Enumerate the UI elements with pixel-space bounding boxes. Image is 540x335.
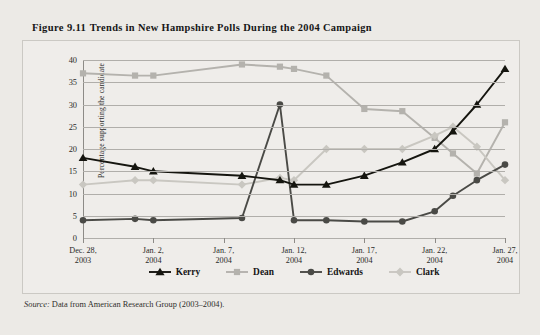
legend-item-edwards[interactable]: Edwards xyxy=(300,266,363,278)
series-clark xyxy=(79,123,509,189)
data-point xyxy=(323,217,330,224)
data-point xyxy=(323,72,329,78)
x-tick xyxy=(294,238,295,243)
data-point xyxy=(399,108,405,114)
chart-card: Percentage supporting the candidate 0510… xyxy=(22,40,520,294)
data-point xyxy=(239,61,245,67)
y-tick-label: 30 xyxy=(55,100,77,109)
data-point xyxy=(132,72,138,78)
figure-label: Figure 9.11 xyxy=(32,22,86,33)
y-tick-label: 20 xyxy=(55,145,77,154)
figure-title-text: Trends in New Hampshire Polls During the… xyxy=(90,22,372,33)
y-tick-label: 35 xyxy=(55,78,77,87)
data-point xyxy=(131,176,139,184)
data-point xyxy=(502,161,509,168)
page-title: Figure 9.11 Trends in New Hampshire Poll… xyxy=(32,20,512,35)
x-tick xyxy=(505,238,506,243)
data-point xyxy=(361,106,367,112)
series-line xyxy=(83,65,505,174)
source-note: Source: Data from American Research Grou… xyxy=(24,300,224,309)
grid-line xyxy=(83,194,505,195)
grid-line xyxy=(83,216,505,217)
y-tick-label: 10 xyxy=(55,189,77,198)
x-tick-label-line1: Jan. 27, xyxy=(473,246,537,256)
grid-line xyxy=(83,171,505,172)
data-point xyxy=(450,150,456,156)
data-point xyxy=(291,217,298,224)
grid-line xyxy=(83,82,505,83)
legend-item-kerry[interactable]: Kerry xyxy=(149,266,200,278)
series-line xyxy=(83,127,505,185)
data-point xyxy=(238,180,246,188)
legend-label: Kerry xyxy=(176,267,200,277)
legend-marker-square-icon xyxy=(226,266,248,278)
data-point xyxy=(361,218,368,225)
grid-line xyxy=(83,149,505,150)
legend-label: Edwards xyxy=(327,267,363,277)
grid-line xyxy=(83,60,505,61)
data-point xyxy=(150,72,156,78)
data-point xyxy=(291,66,297,72)
x-tick xyxy=(153,238,154,243)
y-tick-label: 40 xyxy=(55,56,77,65)
data-point xyxy=(431,208,438,215)
legend-label: Dean xyxy=(253,267,274,277)
data-point xyxy=(502,119,508,125)
grid-line xyxy=(83,105,505,106)
x-tick-label-line1: Jan. 7, xyxy=(192,246,256,256)
x-tick-label-line1: Jan. 17, xyxy=(332,246,396,256)
data-point xyxy=(150,217,157,224)
figure-page: Figure 9.11 Trends in New Hampshire Poll… xyxy=(0,0,540,335)
y-tick-label: 25 xyxy=(55,122,77,131)
series-edwards xyxy=(80,101,509,225)
data-point xyxy=(80,217,87,224)
source-text: Data from American Research Group (2003–… xyxy=(50,300,225,309)
legend-marker-diamond-icon xyxy=(389,266,411,278)
x-tick xyxy=(83,238,84,243)
x-tick-label-line1: Jan. 12, xyxy=(262,246,326,256)
data-point xyxy=(79,154,88,161)
data-point xyxy=(501,65,510,72)
data-point xyxy=(149,176,157,184)
x-tick xyxy=(364,238,365,243)
series-dean xyxy=(80,61,508,176)
x-tick xyxy=(224,238,225,243)
chart-legend: KerryDeanEdwardsClark xyxy=(83,263,505,281)
y-tick-label: 15 xyxy=(55,167,77,176)
data-point xyxy=(474,177,481,184)
y-tick-label: 5 xyxy=(55,211,77,220)
legend-item-clark[interactable]: Clark xyxy=(389,266,439,278)
source-word: Source: xyxy=(24,300,50,309)
x-tick-label-line1: Jan. 22, xyxy=(403,246,467,256)
data-point xyxy=(399,218,406,225)
x-tick-label-line1: Jan. 2, xyxy=(121,246,185,256)
legend-marker-triangle-icon xyxy=(149,266,171,278)
legend-marker-circle-icon xyxy=(300,266,322,278)
series-line xyxy=(83,105,505,222)
data-point xyxy=(79,180,87,188)
y-tick-label: 0 xyxy=(55,234,77,243)
data-point xyxy=(80,70,86,76)
plot-area: Percentage supporting the candidate 0510… xyxy=(83,60,505,238)
x-tick xyxy=(435,238,436,243)
legend-label: Clark xyxy=(416,267,439,277)
x-tick-label-line1: Dec. 28, xyxy=(51,246,115,256)
data-point xyxy=(277,64,283,70)
legend-item-dean[interactable]: Dean xyxy=(226,266,274,278)
grid-line xyxy=(83,127,505,128)
